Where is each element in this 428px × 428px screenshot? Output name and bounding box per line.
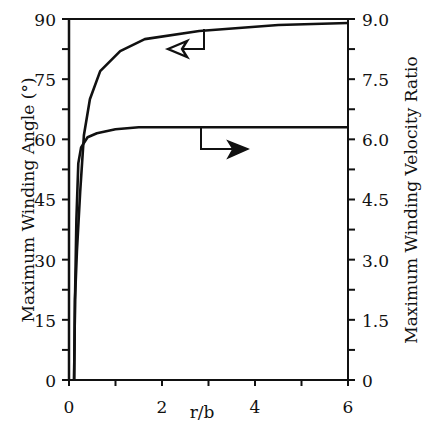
- axis-ticks: [62, 19, 355, 386]
- y-axis-title: Maximum Winding Angle (°): [18, 77, 38, 322]
- winding-velocity-ratio-curve: [74, 127, 348, 380]
- y2-tick-4-5: 4.5: [362, 190, 389, 210]
- y-tick-90: 90: [34, 10, 56, 30]
- x-tick-0: 0: [64, 397, 75, 417]
- y2-tick-3-0: 3.0: [362, 251, 389, 271]
- y2-tick-7-5: 7.5: [362, 70, 389, 90]
- x-tick-4: 4: [250, 397, 261, 417]
- y2-tick-6-0: 6.0: [362, 130, 389, 150]
- right-axis-indicator-arrow: [201, 127, 248, 158]
- y2-tick-1-5: 1.5: [362, 311, 389, 331]
- y2-axis-title: Maximum Winding Velocity Ratio: [401, 56, 421, 343]
- y2-tick-9-0: 9.0: [362, 10, 389, 30]
- dual-axis-line-chart: 0 15 30 45 60 75 90 0 1.5 3.0 4.5 6.0 7.…: [0, 0, 428, 428]
- winding-angle-curve: [74, 23, 348, 380]
- right-tick-labels: 0 1.5 3.0 4.5 6.0 7.5 9.0: [362, 10, 389, 391]
- x-axis-title: r/b: [190, 402, 215, 422]
- y-tick-0: 0: [45, 371, 56, 391]
- x-tick-2: 2: [157, 397, 168, 417]
- y2-tick-0: 0: [362, 371, 373, 391]
- x-tick-6: 6: [343, 397, 354, 417]
